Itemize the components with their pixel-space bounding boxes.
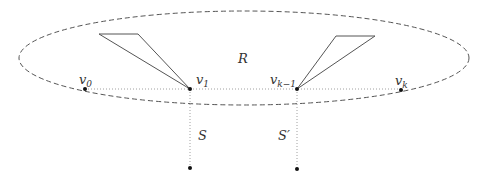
region-r-label: R [237, 51, 248, 66]
diagram-canvas: R v0 v1 vk−1 vk S S′ [0, 0, 482, 182]
vertex-vk-1-label: vk−1 [270, 72, 296, 89]
segment-s-end-dot [188, 166, 192, 170]
vertex-v0-label: v0 [79, 72, 92, 89]
segment-s-label: S [198, 128, 207, 143]
segment-s-prime-label: S′ [278, 128, 290, 143]
vertex-vk-label: vk [395, 73, 408, 90]
right-triangle [297, 36, 375, 89]
segment-s-prime-end-dot [295, 167, 299, 171]
vertex-v1-dot [188, 87, 192, 91]
vertex-v1-label: v1 [196, 72, 209, 89]
left-triangle [99, 34, 190, 89]
